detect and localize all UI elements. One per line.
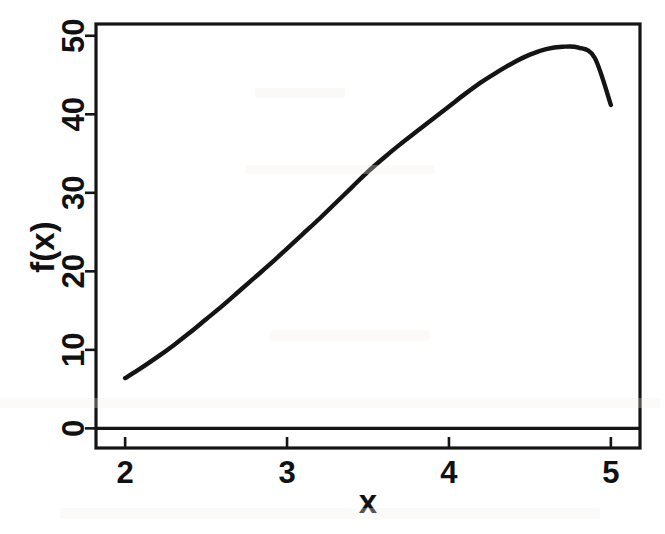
y-tick-label: 10 <box>56 333 91 367</box>
y-tick-label: 30 <box>56 176 91 210</box>
x-tick-label: 4 <box>440 455 458 490</box>
data-series-line <box>125 46 611 378</box>
y-tick-label: 0 <box>56 420 91 437</box>
x-tick-label: 5 <box>602 455 619 490</box>
y-axis-ticks <box>85 36 96 429</box>
y-axis-title: f(x) <box>24 221 61 272</box>
x-tick-label: 2 <box>117 455 134 490</box>
y-axis-tick-labels: 01020304050 <box>56 19 91 437</box>
plot-canvas: 01020304050 2345 f(x) x <box>0 0 665 534</box>
x-axis-ticks <box>125 437 611 448</box>
y-tick-label: 40 <box>56 97 91 131</box>
x-tick-label: 3 <box>278 455 295 490</box>
plot-frame-box <box>96 24 640 448</box>
y-tick-label: 50 <box>56 19 91 53</box>
x-axis-title: x <box>359 483 378 520</box>
chart-figure: 01020304050 2345 f(x) x <box>0 0 665 534</box>
y-tick-label: 20 <box>56 254 91 288</box>
